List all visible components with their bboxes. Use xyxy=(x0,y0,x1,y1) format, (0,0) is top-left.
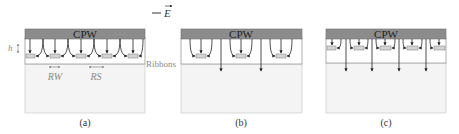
ribbon xyxy=(76,54,86,58)
h-label: h xyxy=(8,43,13,53)
ribbon-region xyxy=(181,38,302,64)
caption-a: (a) xyxy=(79,117,90,129)
ribbon xyxy=(102,54,112,58)
ribbon-region xyxy=(326,38,446,63)
ribbon xyxy=(26,54,35,58)
cpw-label: CPW xyxy=(73,28,97,40)
cpw-label: CPW xyxy=(374,28,398,40)
ribbon xyxy=(380,46,391,50)
caption-b: (b) xyxy=(235,117,247,129)
ribbon xyxy=(128,54,138,58)
legend-label: E xyxy=(163,7,171,19)
ribbon xyxy=(276,54,286,58)
legend: E xyxy=(152,6,172,19)
ribbon xyxy=(354,46,364,50)
ribbon xyxy=(434,46,445,50)
ribbon xyxy=(407,46,418,50)
ribbon xyxy=(327,46,336,50)
ribbon xyxy=(236,54,246,58)
ribbons-label: Ribbons xyxy=(146,59,177,69)
rw-label: RW xyxy=(47,71,64,82)
substrate xyxy=(25,64,145,113)
substrate xyxy=(181,64,302,113)
ribbon xyxy=(196,54,206,58)
caption-c: (c) xyxy=(380,117,391,129)
substrate xyxy=(326,63,446,113)
diagram-canvas: E CPW xyxy=(0,0,459,134)
panel-c: CPW (c) xyxy=(326,28,446,129)
panel-b: CPW (b) xyxy=(181,28,302,129)
rs-label: RS xyxy=(89,71,101,82)
ribbon xyxy=(50,54,60,58)
panel-a: CPW h xyxy=(8,28,177,129)
cpw-label: CPW xyxy=(229,28,253,40)
